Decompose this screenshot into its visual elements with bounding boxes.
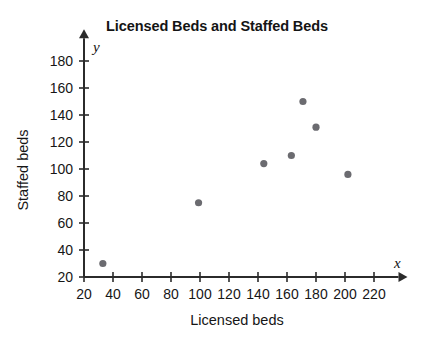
x-tick-label: 40	[105, 286, 121, 302]
y-tick-label: 100	[50, 161, 74, 177]
data-point	[195, 199, 202, 206]
data-points-group	[99, 98, 351, 267]
tick-marks-group	[79, 61, 374, 282]
x-tick-label: 60	[134, 286, 150, 302]
x-tick-label: 220	[362, 286, 386, 302]
x-tick-label: 100	[188, 286, 212, 302]
data-point	[260, 160, 267, 167]
x-axis-variable-label: x	[393, 255, 401, 271]
y-axis-variable-label: y	[91, 39, 100, 55]
x-axis-tick-labels: 20406080100120140160180200220	[76, 286, 386, 302]
y-tick-label: 140	[50, 107, 74, 123]
data-point	[288, 152, 295, 159]
data-point	[312, 124, 319, 131]
x-axis-title: Licensed beds	[190, 312, 284, 328]
axes-group	[79, 29, 408, 282]
x-tick-label: 160	[275, 286, 299, 302]
y-tick-label: 160	[50, 80, 74, 96]
y-tick-label: 120	[50, 134, 74, 150]
y-tick-label: 60	[57, 215, 73, 231]
data-point	[99, 260, 106, 267]
x-tick-label: 80	[163, 286, 179, 302]
data-point	[344, 171, 351, 178]
y-axis-title: Staffed beds	[15, 129, 31, 210]
y-axis-tick-labels: 20406080100120140160180	[50, 53, 74, 285]
scatter-plot-figure: Licensed Beds and Staffed Beds 204060801…	[0, 0, 434, 338]
x-tick-label: 120	[217, 286, 241, 302]
y-tick-label: 180	[50, 53, 74, 69]
x-tick-label: 140	[246, 286, 270, 302]
y-tick-label: 40	[57, 242, 73, 258]
data-point	[299, 98, 306, 105]
x-tick-label: 180	[304, 286, 328, 302]
x-axis-arrowhead	[399, 272, 408, 282]
x-tick-label: 200	[333, 286, 357, 302]
y-tick-label: 20	[57, 269, 73, 285]
x-tick-label: 20	[76, 286, 92, 302]
plot-area: 20406080100120140160180200220 2040608010…	[0, 0, 434, 338]
y-axis-arrowhead	[79, 29, 89, 38]
y-tick-label: 80	[57, 188, 73, 204]
